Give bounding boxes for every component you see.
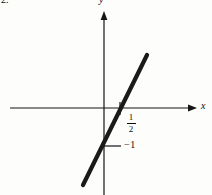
y-intercept-value-label: −1	[124, 140, 136, 150]
figure-number: 2.	[1, 0, 9, 5]
line-graph-figure: 2. y x −1 1 2	[0, 0, 212, 195]
graph-canvas	[0, 0, 212, 195]
x-intercept-fraction-label: 1 2	[124, 112, 138, 135]
fraction-numerator: 1	[124, 112, 138, 122]
fraction-denominator: 2	[124, 124, 138, 134]
y-axis-label: y	[99, 0, 103, 5]
y-axis	[101, 11, 108, 195]
x-axis-label: x	[201, 101, 205, 111]
